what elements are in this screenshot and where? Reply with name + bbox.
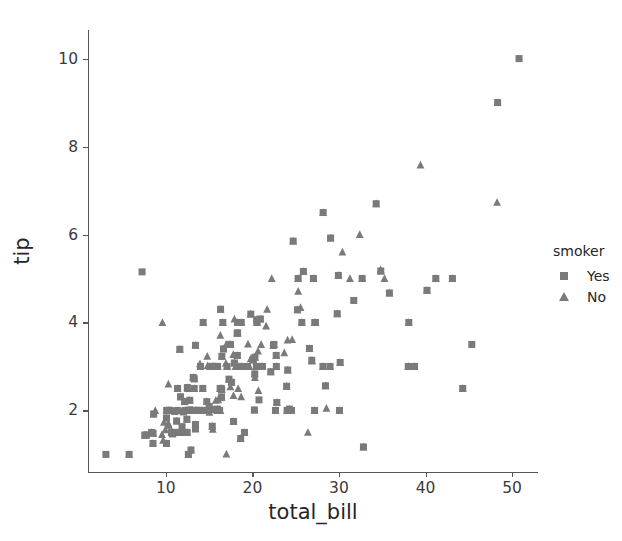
data-point-triangle bbox=[346, 274, 354, 282]
legend-label-no: No bbox=[587, 289, 606, 305]
x-axis-label: total_bill bbox=[268, 500, 357, 524]
plot-area bbox=[88, 30, 538, 472]
x-tick-mark bbox=[426, 472, 427, 477]
data-point-triangle bbox=[268, 274, 276, 282]
data-point-triangle bbox=[230, 391, 238, 399]
legend-item-yes[interactable]: Yes bbox=[553, 265, 619, 286]
x-tick-label: 30 bbox=[329, 479, 349, 497]
y-tick-mark bbox=[83, 235, 88, 236]
x-tick-label: 20 bbox=[243, 479, 263, 497]
data-point-triangle bbox=[257, 340, 265, 348]
x-tick-label: 50 bbox=[502, 479, 522, 497]
legend: smoker Yes No bbox=[553, 243, 619, 307]
data-point-triangle bbox=[280, 349, 288, 357]
data-point-square bbox=[516, 55, 523, 62]
data-point-triangle bbox=[159, 318, 167, 326]
data-point-square bbox=[350, 297, 357, 304]
data-point-triangle bbox=[263, 305, 271, 313]
data-point-triangle bbox=[304, 428, 312, 436]
legend-label-yes: Yes bbox=[587, 268, 610, 284]
data-point-triangle bbox=[216, 331, 224, 339]
scatter-points-layer bbox=[88, 30, 538, 472]
series-yes bbox=[102, 55, 522, 458]
data-point-square bbox=[468, 341, 475, 348]
scatter-plot-figure: 1020304050 246810 total_bill tip smoker … bbox=[0, 0, 622, 541]
data-point-triangle bbox=[294, 287, 302, 295]
y-tick-mark bbox=[83, 410, 88, 411]
legend-title: smoker bbox=[553, 243, 619, 259]
y-tick-mark bbox=[83, 147, 88, 148]
data-point-triangle bbox=[222, 450, 230, 458]
data-point-triangle bbox=[237, 393, 245, 401]
data-point-triangle bbox=[164, 380, 172, 388]
data-point-triangle bbox=[234, 384, 242, 392]
y-axis-label: tip bbox=[10, 237, 34, 264]
x-tick-mark bbox=[252, 472, 253, 477]
data-point-triangle bbox=[254, 386, 262, 394]
data-point-triangle bbox=[417, 161, 425, 169]
data-point-square bbox=[102, 451, 109, 458]
data-point-triangle bbox=[262, 322, 270, 330]
data-point-triangle bbox=[244, 340, 252, 348]
x-axis-spine bbox=[88, 472, 538, 473]
data-point-triangle bbox=[254, 347, 262, 355]
data-point-triangle bbox=[356, 230, 364, 238]
y-tick-label: 8 bbox=[68, 138, 78, 156]
legend-item-no[interactable]: No bbox=[553, 286, 619, 307]
y-tick-mark bbox=[83, 322, 88, 323]
data-point-triangle bbox=[381, 274, 389, 282]
y-tick-label: 10 bbox=[58, 50, 78, 68]
y-tick-mark bbox=[83, 59, 88, 60]
legend-square-marker-icon bbox=[553, 272, 575, 280]
x-tick-mark bbox=[512, 472, 513, 477]
data-point-triangle bbox=[203, 352, 211, 360]
data-point-triangle bbox=[322, 404, 330, 412]
x-tick-mark bbox=[339, 472, 340, 477]
data-point-triangle bbox=[339, 248, 347, 256]
legend-triangle-marker-icon bbox=[553, 292, 575, 301]
x-tick-mark bbox=[166, 472, 167, 477]
data-point-square bbox=[256, 396, 263, 403]
y-tick-label: 2 bbox=[68, 401, 78, 419]
data-point-triangle bbox=[493, 198, 501, 206]
y-axis-spine bbox=[88, 30, 89, 472]
y-tick-label: 6 bbox=[68, 226, 78, 244]
x-tick-label: 10 bbox=[156, 479, 176, 497]
y-tick-label: 4 bbox=[68, 313, 78, 331]
series-no bbox=[125, 98, 501, 458]
x-tick-label: 40 bbox=[416, 479, 436, 497]
data-point-square bbox=[139, 268, 146, 275]
